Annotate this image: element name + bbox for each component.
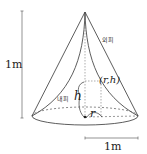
cone-diagram (0, 0, 147, 154)
width-dimension-label: 1m (104, 140, 121, 153)
inner-shell-label: 내피 (57, 94, 69, 103)
center-point (84, 116, 87, 119)
h-variable-label: h (74, 89, 82, 103)
outer-shell-label: 외피 (102, 35, 114, 44)
point-rh-label: (r,h) (99, 74, 120, 85)
r-variable-label: r (90, 107, 95, 120)
height-dimension-label: 1m (5, 58, 22, 71)
